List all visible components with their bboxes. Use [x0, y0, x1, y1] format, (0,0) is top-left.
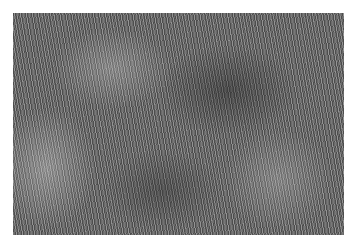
grass-texture-photo: [13, 13, 344, 235]
